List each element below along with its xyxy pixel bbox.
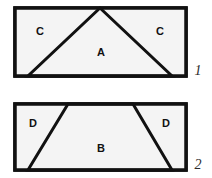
label-b: B — [97, 142, 105, 154]
figure-2: D B D 2 — [15, 104, 202, 172]
figure-number-1: 1 — [195, 63, 202, 78]
label-c-right: C — [156, 25, 164, 37]
label-d-left: D — [29, 117, 37, 129]
figure-number-2: 2 — [195, 157, 202, 172]
figure-1: C A C 1 — [15, 8, 202, 78]
geometry-figures-svg: C A C 1 D B D 2 — [0, 0, 212, 178]
label-a: A — [97, 46, 105, 58]
label-c-left: C — [36, 25, 44, 37]
figure-sheet: C A C 1 D B D 2 — [0, 0, 212, 178]
label-d-right: D — [162, 117, 170, 129]
